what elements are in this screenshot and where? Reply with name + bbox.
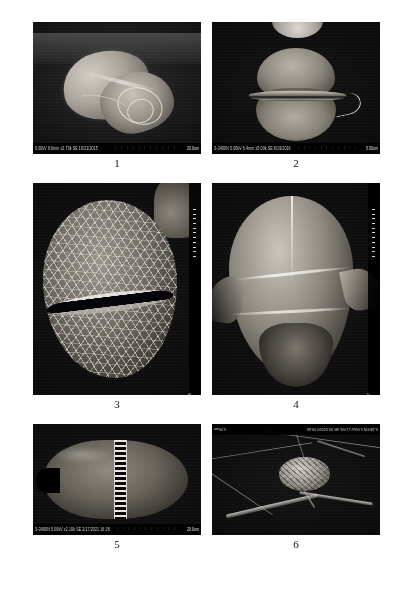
panel-caption-4: 4 (266, 398, 326, 410)
figure-plate: 5.00kV 8.6mm x2.70k SE 10/21/2015 20.0um… (0, 0, 408, 590)
micrograph-4 (212, 183, 380, 395)
panel-6[interactable]: S-3400N 5.00kV x1.00k SE 9/13/2020 09:44… (212, 424, 380, 535)
scalebar-ticks-3 (193, 209, 196, 257)
infobar-2: S-3400N 5.00kV 6.4mm x5.00k SE 8/19/2016… (212, 143, 380, 154)
panel-caption-1: 1 (87, 157, 147, 169)
panel-1[interactable]: 5.00kV 8.6mm x2.70k SE 10/21/2015 20.0um (33, 22, 201, 154)
panel-caption-5: 5 (87, 538, 147, 550)
sem-params-2: S-3400N 5.00kV 6.4mm x5.00k SE 8/19/2016 (214, 146, 291, 151)
infobar-3: S-3400N 5.00kV x5.00k SE 7/15/2020 15:46… (189, 183, 201, 395)
scale-label-1: 20.0um (187, 146, 199, 151)
specimen-sporangium-texture-6 (279, 457, 329, 490)
panel-5[interactable]: S-3400N 5.00kV x2.10k SE 2/17/2021 16:28… (33, 424, 201, 535)
micrograph-6 (212, 424, 380, 535)
panel-caption-2: 2 (266, 157, 326, 169)
sem-params-3: S-3400N 5.00kV x5.00k SE 7/15/2020 15:46 (187, 393, 192, 395)
specimen-highlight-5 (53, 446, 110, 464)
sem-params-5: S-3400N 5.00kV x2.10k SE 2/17/2021 16:28 (35, 527, 110, 532)
infobar-4: S-3400N 5.00kV x4.70k SE 8/19/2021 17:27… (368, 183, 380, 395)
specimen-notch-5 (36, 468, 60, 492)
panel-4[interactable]: S-3400N 5.00kV x4.70k SE 8/19/2021 17:27… (212, 183, 380, 395)
scale-label-6: 5.00um (214, 427, 226, 432)
scalebar-ticks-4 (372, 209, 375, 257)
panel-3[interactable]: S-3400N 5.00kV x5.00k SE 7/15/2020 15:46… (33, 183, 201, 395)
panel-caption-3: 3 (87, 398, 147, 410)
micrograph-1 (33, 22, 201, 154)
micrograph-5 (33, 424, 201, 535)
infobar-5: S-3400N 5.00kV x2.10k SE 2/17/2021 16:28… (33, 524, 201, 535)
panel-caption-6: 6 (266, 538, 326, 550)
sem-params-1: 5.00kV 8.6mm x2.70k SE 10/21/2015 (35, 146, 98, 151)
sem-params-6: S-3400N 5.00kV x1.00k SE 9/13/2020 09:44 (307, 427, 378, 432)
scale-label-2: 5.00um (366, 146, 378, 151)
infobar-6: S-3400N 5.00kV x1.00k SE 9/13/2020 09:44… (212, 424, 380, 435)
sem-params-4: S-3400N 5.00kV x4.70k SE 8/19/2021 17:27 (366, 393, 371, 395)
specimen-toothed-ridge-5 (114, 440, 128, 520)
panel-2[interactable]: S-3400N 5.00kV 6.4mm x5.00k SE 8/19/2016… (212, 22, 380, 154)
micrograph-3 (33, 183, 201, 395)
specimen-apical-ridge-4 (291, 196, 293, 281)
micrograph-2 (212, 22, 380, 154)
scale-label-5: 20.0um (187, 527, 199, 532)
infobar-1: 5.00kV 8.6mm x2.70k SE 10/21/2015 20.0um (33, 143, 201, 154)
